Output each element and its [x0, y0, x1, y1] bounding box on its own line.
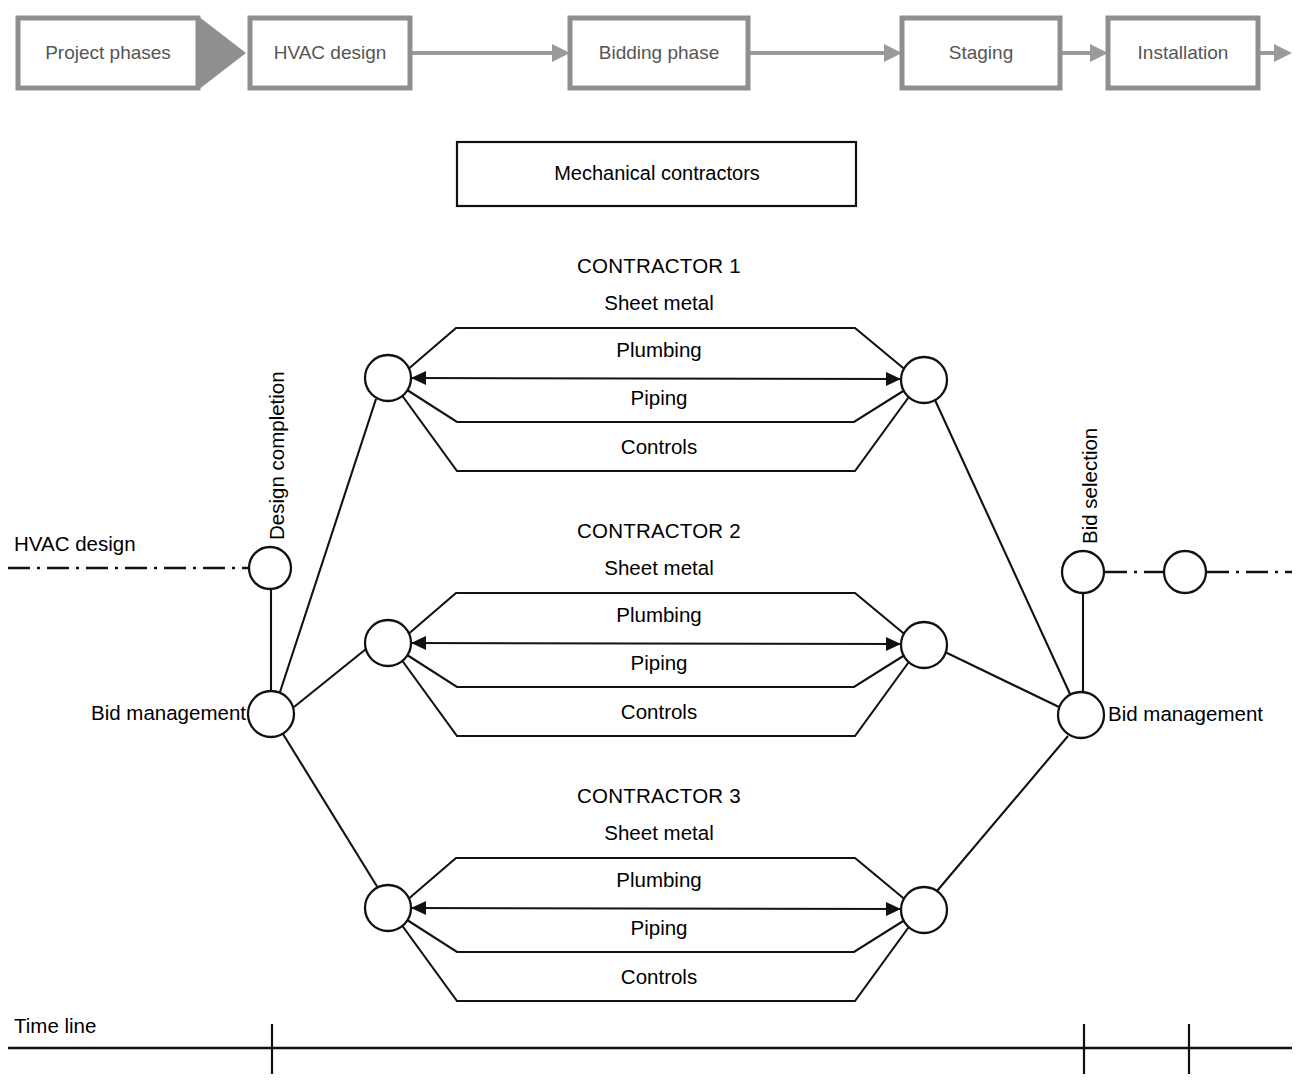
phase-block-installation[interactable]: Installation	[1108, 18, 1258, 88]
contractor-2-start-node[interactable]	[365, 620, 411, 666]
phase-label-installation: Installation	[1138, 42, 1229, 63]
contractor-3-task-controls: Controls	[621, 965, 697, 988]
phase-row: Project phases HVAC design Bidding phase	[16, 16, 1292, 90]
fanin-from-contractor-1	[935, 400, 1070, 694]
left-milestone-spine: HVAC design Design completion Bid manage…	[8, 371, 378, 888]
contractor-3-start-node[interactable]	[365, 885, 411, 931]
contractor-2-task-sheet-metal: Sheet metal	[604, 556, 713, 579]
contractor-2-path-plumbing	[411, 643, 901, 644]
phase-label-bidding-phase: Bidding phase	[599, 42, 719, 63]
phase-block-bidding-phase[interactable]: Bidding phase	[570, 18, 748, 88]
contractor-2-diverge-arrow-icon	[411, 636, 426, 650]
contractor-1-start-node[interactable]	[365, 355, 411, 401]
phase-connector-4-arrow-icon	[1260, 44, 1292, 62]
fanout-to-contractor-2	[294, 649, 366, 707]
contractor-2-end-node[interactable]	[901, 622, 947, 668]
contractor-3-converge-arrow-icon	[886, 902, 901, 916]
contractor-2-converge-arrow-icon	[886, 637, 901, 651]
contractor-1-task-plumbing: Plumbing	[616, 338, 701, 361]
phase-block-hvac-design[interactable]: HVAC design	[250, 18, 410, 88]
contractor-1-converge-arrow-icon	[886, 372, 901, 386]
contractor-3-title: CONTRACTOR 3	[577, 784, 741, 807]
phase-connector-2-arrow-icon	[750, 44, 902, 62]
contractor-1-path-plumbing	[411, 378, 901, 379]
contractor-1-end-node[interactable]	[901, 357, 947, 403]
contractor-3-task-plumbing: Plumbing	[616, 868, 701, 891]
fanin-from-contractor-2	[945, 652, 1059, 707]
contractor-2-group: CONTRACTOR 2 Sheet metal Plumbing Piping…	[365, 519, 947, 736]
contractor-3-diverge-arrow-icon	[411, 901, 426, 915]
timeline-group: Time line	[8, 1014, 1292, 1074]
bid-management-left-label: Bid management	[91, 701, 246, 724]
bid-management-right-label: Bid management	[1108, 702, 1263, 725]
contractor-1-diverge-arrow-icon	[411, 371, 426, 385]
contractor-3-path-plumbing	[411, 908, 901, 909]
contractor-2-task-controls: Controls	[621, 700, 697, 723]
phase-block-staging[interactable]: Staging	[902, 18, 1060, 88]
phase-label-project-phases: Project phases	[45, 42, 171, 63]
contractor-2-title: CONTRACTOR 2	[577, 519, 741, 542]
contractor-1-group: CONTRACTOR 1 Sheet metal Plumbing Piping…	[365, 254, 947, 471]
phase-label-hvac-design: HVAC design	[274, 42, 387, 63]
diagram-page: Project phases HVAC design Bidding phase	[0, 0, 1298, 1085]
hvac-design-milestone-label: HVAC design	[14, 532, 136, 555]
contractor-2-task-piping: Piping	[631, 651, 688, 674]
mechanical-contractors-block[interactable]: Mechanical contractors	[457, 142, 856, 206]
phase-block-project-phases[interactable]: Project phases	[16, 16, 246, 90]
fanout-to-contractor-1	[280, 399, 376, 692]
design-completion-node[interactable]	[249, 547, 291, 589]
trailing-milestone-node[interactable]	[1164, 551, 1206, 593]
bid-management-right-node[interactable]	[1058, 692, 1104, 738]
right-milestone-spine: Bid selection Bid management	[935, 400, 1292, 891]
project-phase-bidding-network-diagram: Project phases HVAC design Bidding phase	[0, 0, 1298, 1085]
mechanical-contractors-label: Mechanical contractors	[554, 162, 760, 184]
fanout-to-contractor-3	[283, 734, 378, 888]
bid-selection-node[interactable]	[1062, 551, 1104, 593]
contractor-3-group: CONTRACTOR 3 Sheet metal Plumbing Piping…	[365, 784, 947, 1001]
timeline-label: Time line	[14, 1014, 96, 1037]
contractor-1-task-piping: Piping	[631, 386, 688, 409]
bid-management-left-node[interactable]	[248, 691, 294, 737]
contractor-1-task-controls: Controls	[621, 435, 697, 458]
fanin-from-contractor-3	[937, 736, 1068, 891]
design-completion-label: Design completion	[265, 371, 288, 540]
contractor-3-task-sheet-metal: Sheet metal	[604, 821, 713, 844]
bid-selection-label: Bid selection	[1078, 428, 1101, 544]
phase-connector-3-arrow-icon	[1062, 44, 1108, 62]
contractor-3-task-piping: Piping	[631, 916, 688, 939]
contractor-2-task-plumbing: Plumbing	[616, 603, 701, 626]
phase-connector-1-arrow-icon	[412, 44, 570, 62]
phase-label-staging: Staging	[949, 42, 1013, 63]
contractor-1-title: CONTRACTOR 1	[577, 254, 741, 277]
contractor-1-task-sheet-metal: Sheet metal	[604, 291, 713, 314]
contractor-3-end-node[interactable]	[901, 887, 947, 933]
